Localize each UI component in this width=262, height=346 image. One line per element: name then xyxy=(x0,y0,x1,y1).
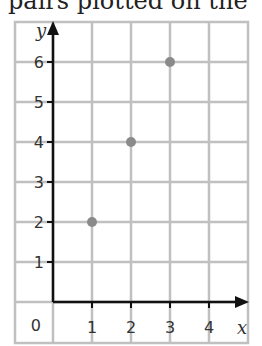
y-tick-label: 1 xyxy=(34,253,44,272)
y-axis-label: y xyxy=(35,20,47,41)
y-tick-label: 6 xyxy=(34,53,44,72)
x-tick-label: 1 xyxy=(87,318,97,337)
y-tick-label: 2 xyxy=(34,213,44,232)
data-point xyxy=(165,57,175,67)
x-tick-label: 3 xyxy=(165,318,175,337)
scatter-chart: 12341234560xy xyxy=(0,0,262,346)
x-axis-label: x xyxy=(237,317,247,338)
data-point xyxy=(87,217,97,227)
x-tick-label: 4 xyxy=(204,318,214,337)
data-point xyxy=(126,137,136,147)
x-tick-label: 2 xyxy=(126,318,136,337)
y-tick-label: 3 xyxy=(34,173,44,192)
y-tick-label: 5 xyxy=(34,93,44,112)
y-tick-label: 4 xyxy=(34,133,44,152)
origin-label: 0 xyxy=(31,316,41,335)
